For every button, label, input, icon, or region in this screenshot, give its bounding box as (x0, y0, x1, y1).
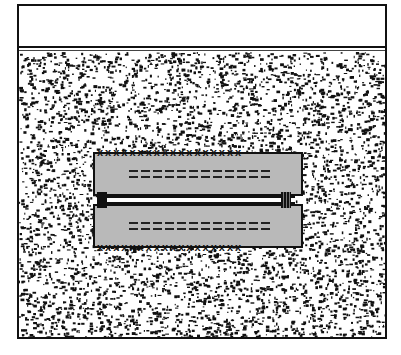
ground-surface-underline (19, 50, 385, 51)
sky-region (19, 6, 385, 46)
upper-panel: xxxxxxxxxxxxxxxxxx (93, 152, 303, 196)
lower-edge-marks: xxxxxxxxxxxxxxxxxx (97, 242, 243, 253)
ground-surface-line (19, 46, 385, 48)
upper-dash-lines (129, 170, 271, 173)
lower-dash-lines (129, 222, 271, 225)
left-fitting (97, 192, 107, 208)
buried-object: xxxxxxxxxxxxxxxxxx xxxxxxxxxxxxxxxxxx (91, 152, 305, 248)
lower-panel: xxxxxxxxxxxxxxxxxx (93, 204, 303, 248)
diagram-frame: xxxxxxxxxxxxxxxxxx xxxxxxxxxxxxxxxxxx (17, 4, 387, 339)
upper-edge-marks: xxxxxxxxxxxxxxxxxx (97, 147, 243, 158)
right-fitting (281, 192, 291, 208)
seam-joint (99, 196, 295, 204)
